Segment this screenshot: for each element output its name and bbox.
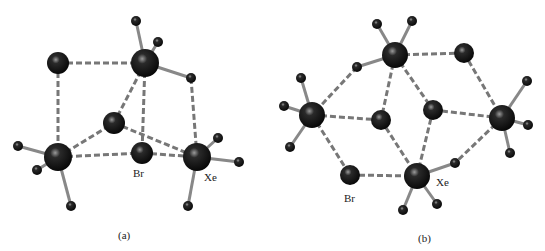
panel-a: Br Xe (a) (13, 16, 244, 242)
panel-b: Br Xe (b) (279, 16, 533, 245)
br-label-a: Br (133, 167, 144, 179)
contact-dashes-a (58, 63, 197, 157)
br-label-b: Br (344, 192, 355, 204)
xe-label-b: Xe (436, 176, 449, 188)
contact-dashes-b (312, 53, 502, 176)
atoms-b (279, 16, 533, 215)
xe-label-a: Xe (204, 171, 217, 183)
caption-b: (b) (418, 232, 431, 245)
caption-a: (a) (118, 229, 131, 242)
molecular-structure-figure: Br Xe (a) (0, 0, 545, 251)
